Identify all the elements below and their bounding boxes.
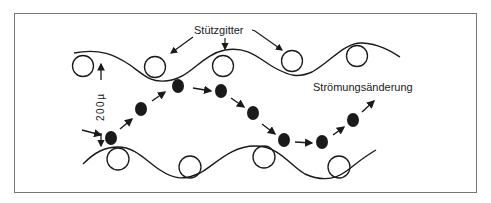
inflow-arrow-icon (82, 130, 101, 135)
flow-arrow-icon (262, 124, 275, 134)
particle-3 (172, 79, 184, 93)
upper-wire-1 (73, 56, 94, 77)
flow-arrows (82, 88, 374, 143)
upper-wire-2 (145, 57, 166, 78)
flow-arrow-icon (152, 92, 165, 101)
particle-2 (135, 102, 147, 116)
flow-arrow-icon (333, 127, 344, 135)
lower-wave-line (83, 146, 376, 179)
upper-wire-3 (213, 56, 234, 77)
upper-wire-5 (347, 46, 368, 67)
gap-label: 200µ (95, 93, 106, 121)
leader-arrow-icon (252, 30, 282, 50)
flow-arrow-icon (231, 98, 244, 107)
flow-arrow-icon (193, 88, 211, 91)
upper-wire-4 (282, 51, 303, 72)
particle-6 (278, 133, 290, 147)
particle-5 (247, 106, 259, 120)
upper-support-grid (73, 43, 401, 81)
outflow-arrow-icon (362, 101, 374, 112)
leader-arrow-icon (171, 37, 193, 53)
lower-wire-2 (179, 156, 201, 178)
support-grid-label: Stützgitter (194, 24, 244, 36)
upper-wave-line (74, 43, 400, 81)
lower-support-grid (83, 146, 376, 179)
lower-wire-3 (253, 146, 275, 168)
flow-arrow-icon (295, 142, 312, 143)
particle-1 (105, 131, 117, 145)
lower-wire-4 (328, 156, 350, 178)
figure-frame (15, 14, 477, 193)
flow-change-label: Strömungsänderung (313, 81, 413, 93)
particle-8 (347, 113, 359, 127)
diagram-canvas: 200µ Stützgitter Strömungsänderung (0, 0, 491, 203)
flow-arrow-icon (120, 119, 132, 129)
particle-7 (316, 135, 328, 149)
diagram-figure: 200µ Stützgitter Strömungsänderung (0, 0, 491, 203)
particle-4 (215, 84, 227, 98)
lower-wire-1 (107, 148, 129, 170)
